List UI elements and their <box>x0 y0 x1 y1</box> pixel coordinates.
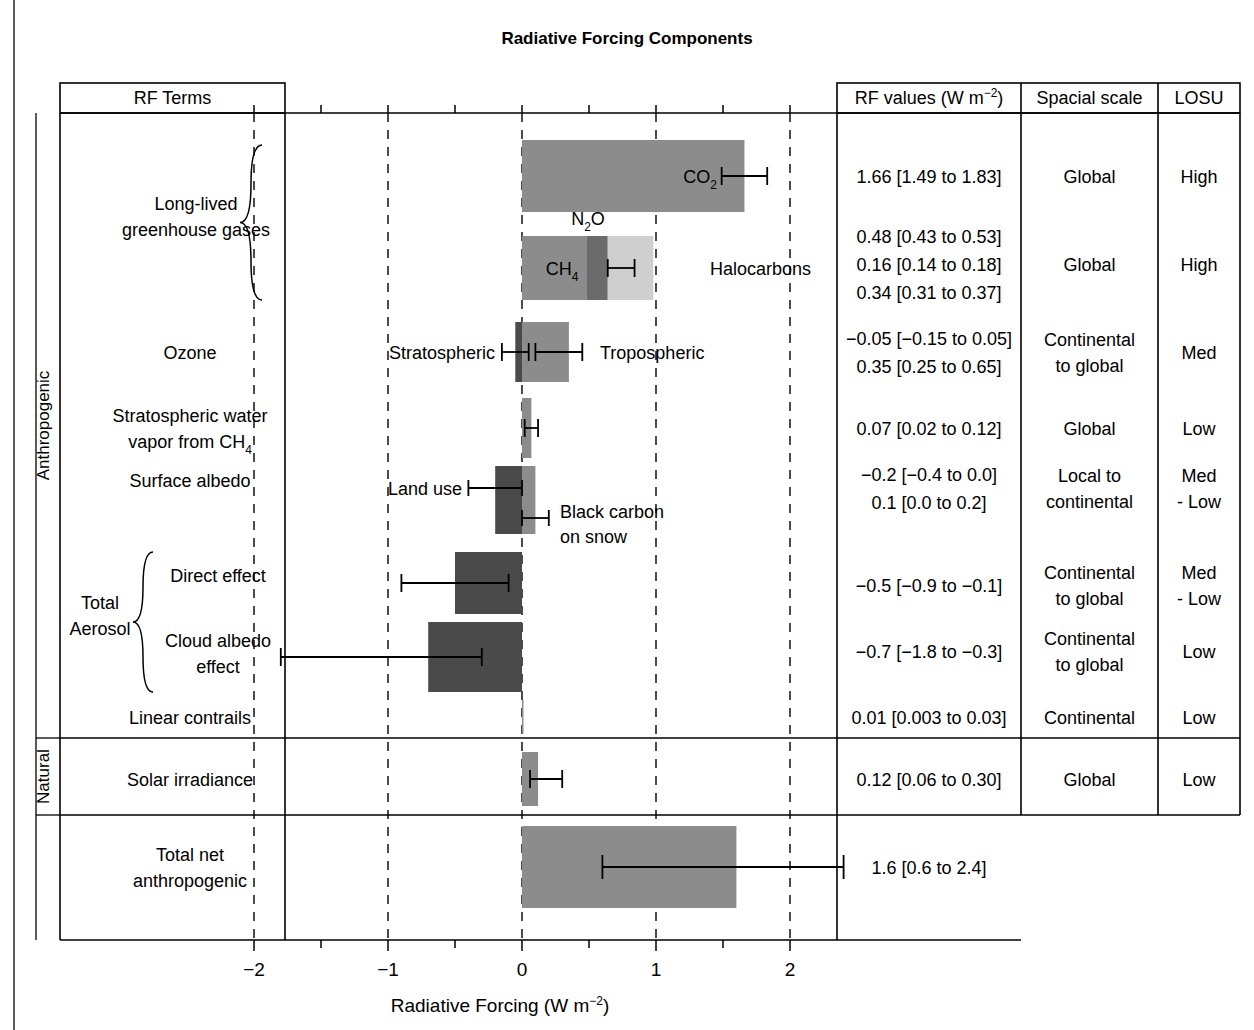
rfvalue-surface-albedo-line-1: 0.1 [0.0 to 0.2] <box>871 493 986 513</box>
rfvalue-linear-contrails-line-0: 0.01 [0.003 to 0.03] <box>851 708 1006 728</box>
spacial-linear-contrails-line-0: Continental <box>1044 708 1135 728</box>
term-total-aerosol-line-1: Aerosol <box>69 619 130 639</box>
side-label-anthropogenic: Anthropogenic <box>34 370 53 480</box>
spacial-total-aerosol-cloud-albedo-effect-line-1: to global <box>1055 655 1123 675</box>
spacial-surface-albedo-line-0: Local to <box>1058 466 1121 486</box>
bar-label-tropospheric: Tropospheric <box>600 343 704 363</box>
bar-label-black-carbon-0: Black carbon <box>560 502 664 522</box>
spacial-long-lived-greenhouse-gases-ch4-n2o-halocarbons-line-0: Global <box>1063 255 1115 275</box>
losu-long-lived-greenhouse-gases-co2-line-0: High <box>1180 167 1217 187</box>
term-total-aerosol-line-0: Total <box>81 593 119 613</box>
bar-label-land-use: Land use <box>388 479 462 499</box>
losu-surface-albedo-line-1: - Low <box>1177 492 1222 512</box>
spacial-total-aerosol-direct-effect-line-1: to global <box>1055 589 1123 609</box>
rfvalue-solar-irradiance-line-0: 0.12 [0.06 to 0.30] <box>856 770 1001 790</box>
rfvalue-surface-albedo-line-0: −0.2 [−0.4 to 0.0] <box>861 465 997 485</box>
header-rf-terms: RF Terms <box>134 88 212 108</box>
bars-layer: CO2N2OCH4HalocarbonsStratosphericTroposp… <box>281 140 844 908</box>
bar-land-use <box>495 466 522 534</box>
rfvalue-long-lived-greenhouse-gases-ch4-n2o-halocarbons-line-2: 0.34 [0.31 to 0.37] <box>856 283 1001 303</box>
xticklabel-3: 1 <box>651 959 662 980</box>
term-cloud-albedo-line-1: effect <box>196 657 240 677</box>
spacial-stratospheric-water-vapour-line-0: Global <box>1063 419 1115 439</box>
x-axis-label: Radiative Forcing (W m−2) <box>391 994 610 1016</box>
spacial-ozone-line-0: Continental <box>1044 330 1135 350</box>
losu-long-lived-greenhouse-gases-ch4-n2o-halocarbons-line-0: High <box>1180 255 1217 275</box>
side-label-natural: Natural <box>34 749 53 804</box>
term-direct-effect-line-0: Direct effect <box>170 566 266 586</box>
losu-surface-albedo-line-0: Med <box>1181 466 1216 486</box>
rfvalue-ozone-line-0: −0.05 [−0.15 to 0.05] <box>846 329 1012 349</box>
term-ozone-line-0: Ozone <box>163 343 216 363</box>
rfvalue-total-net-anthropogenic-line-0: 1.6 [0.6 to 2.4] <box>871 858 986 878</box>
losu-solar-irradiance-line-0: Low <box>1182 770 1216 790</box>
rfvalue-total-aerosol-direct-effect-line-0: −0.5 [−0.9 to −0.1] <box>856 576 1003 596</box>
rf-terms-column: OzoneStratospheric watervapor from CH4Su… <box>69 145 271 891</box>
xticklabel-1: −1 <box>377 959 399 980</box>
spacial-total-aerosol-direct-effect-line-0: Continental <box>1044 563 1135 583</box>
term-swv-line-1: vapor from CH4 <box>128 432 252 457</box>
xticklabel-4: 2 <box>785 959 796 980</box>
losu-total-aerosol-direct-effect-line-1: - Low <box>1177 589 1222 609</box>
losu-total-aerosol-direct-effect-line-0: Med <box>1181 563 1216 583</box>
radiative-forcing-chart: Radiative Forcing ComponentsRF TermsRF v… <box>0 0 1254 1030</box>
xticklabel-2: 0 <box>517 959 528 980</box>
term-linear-contrails-line-0: Linear contrails <box>129 708 251 728</box>
spacial-long-lived-greenhouse-gases-co2-line-0: Global <box>1063 167 1115 187</box>
term-surface-albedo-line-0: Surface albedo <box>129 471 250 491</box>
rfvalue-stratospheric-water-vapour-line-0: 0.07 [0.02 to 0.12] <box>856 419 1001 439</box>
term-total-net-line-1: anthropogenic <box>133 871 247 891</box>
bar-n2o <box>586 236 607 300</box>
rfvalue-ozone-line-1: 0.35 [0.25 to 0.65] <box>856 357 1001 377</box>
term-swv-line-0: Stratospheric water <box>112 406 267 426</box>
losu-total-aerosol-cloud-albedo-effect-line-0: Low <box>1182 642 1216 662</box>
values-columns: 1.66 [1.49 to 1.83]GlobalHigh0.48 [0.43 … <box>846 167 1222 878</box>
page-title: Radiative Forcing Components <box>501 29 752 48</box>
radiative-forcing-figure: Radiative Forcing ComponentsRF TermsRF v… <box>0 0 1254 1030</box>
bar-co2 <box>522 140 744 212</box>
spacial-surface-albedo-line-1: continental <box>1046 492 1133 512</box>
header-spacial-scale: Spacial scale <box>1036 88 1142 108</box>
losu-stratospheric-water-vapour-line-0: Low <box>1182 419 1216 439</box>
term-cloud-albedo-line-0: Cloud albedo <box>165 631 271 651</box>
term-solar-irradiance-line-0: Solar irradiance <box>127 770 253 790</box>
rfvalue-long-lived-greenhouse-gases-ch4-n2o-halocarbons-line-1: 0.16 [0.14 to 0.18] <box>856 255 1001 275</box>
losu-ozone-line-0: Med <box>1181 343 1216 363</box>
bar-label-halocarbons: Halocarbons <box>710 259 811 279</box>
spacial-ozone-line-1: to global <box>1055 356 1123 376</box>
xticklabel-0: −2 <box>243 959 265 980</box>
brace-total-aerosol <box>133 552 153 692</box>
bar-label-n2o: N2O <box>571 209 605 234</box>
term-long-lived-line-0: Long-lived <box>154 194 237 214</box>
bar-linear-contrails <box>522 700 524 734</box>
spacial-total-aerosol-cloud-albedo-effect-line-0: Continental <box>1044 629 1135 649</box>
losu-linear-contrails-line-0: Low <box>1182 708 1216 728</box>
spacial-solar-irradiance-line-0: Global <box>1063 770 1115 790</box>
header-rf-values: RF values (W m−2) <box>855 86 1004 108</box>
bar-label-stratospheric: Stratospheric <box>389 343 495 363</box>
header-losu: LOSU <box>1174 88 1223 108</box>
bar-black-carbon-snow <box>522 466 535 534</box>
rfvalue-long-lived-greenhouse-gases-ch4-n2o-halocarbons-line-0: 0.48 [0.43 to 0.53] <box>856 227 1001 247</box>
rfvalue-long-lived-greenhouse-gases-co2-line-0: 1.66 [1.49 to 1.83] <box>856 167 1001 187</box>
bar-label-black-carbon-1: on snow <box>560 527 628 547</box>
rfvalue-total-aerosol-cloud-albedo-effect-line-0: −0.7 [−1.8 to −0.3] <box>856 642 1003 662</box>
term-total-net-line-0: Total net <box>156 845 224 865</box>
term-long-lived-line-1: greenhouse gases <box>122 220 270 240</box>
